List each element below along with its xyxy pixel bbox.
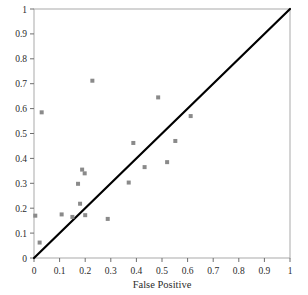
x-tick-label-1: 0.1 xyxy=(54,266,66,276)
x-tick-label-2: 0.2 xyxy=(79,266,91,276)
y-tick-label-4: 0.4 xyxy=(15,154,27,164)
y-tick-label-8: 0.8 xyxy=(15,54,27,64)
x-axis-title: False Positive xyxy=(133,279,192,290)
data-point-8 xyxy=(83,171,87,175)
data-point-12 xyxy=(127,181,131,185)
x-tick-label-0: 0 xyxy=(32,266,37,276)
y-tick-label-2: 0.2 xyxy=(15,204,27,214)
y-axis-tick-labels: 00.10.20.30.40.50.60.70.80.91 xyxy=(15,5,27,264)
scatter-chart: 00.10.20.30.40.50.60.70.80.91 00.10.20.3… xyxy=(0,0,308,295)
y-tick-label-10: 1 xyxy=(22,5,27,15)
x-tick-label-3: 0.3 xyxy=(105,266,117,276)
y-tick-label-9: 0.9 xyxy=(15,29,27,39)
data-point-14 xyxy=(143,165,147,169)
x-tick-label-8: 0.8 xyxy=(233,266,245,276)
data-point-18 xyxy=(189,114,193,118)
data-point-6 xyxy=(78,202,82,206)
y-tick-label-3: 0.3 xyxy=(15,179,27,189)
y-tick-label-6: 0.6 xyxy=(15,104,27,114)
data-point-16 xyxy=(165,160,169,164)
y-axis-ticks xyxy=(30,9,34,258)
y-tick-label-7: 0.7 xyxy=(15,79,27,89)
data-point-4 xyxy=(70,215,74,219)
data-point-17 xyxy=(173,139,177,143)
x-axis-tick-labels: 00.10.20.30.40.50.60.70.80.91 xyxy=(32,266,293,276)
data-point-10 xyxy=(90,79,94,83)
x-tick-label-4: 0.4 xyxy=(130,266,142,276)
data-point-9 xyxy=(83,213,87,217)
data-point-1 xyxy=(38,241,42,245)
data-point-11 xyxy=(106,217,110,221)
x-tick-label-6: 0.6 xyxy=(182,266,194,276)
data-point-0 xyxy=(33,214,37,218)
data-point-15 xyxy=(156,95,160,99)
data-point-2 xyxy=(40,110,44,114)
x-tick-label-10: 1 xyxy=(288,266,293,276)
data-point-3 xyxy=(60,212,64,216)
data-point-13 xyxy=(131,141,135,145)
data-point-7 xyxy=(80,168,84,172)
y-tick-label-0: 0 xyxy=(22,254,27,264)
x-tick-label-5: 0.5 xyxy=(156,266,168,276)
y-tick-label-5: 0.5 xyxy=(15,129,27,139)
x-axis-ticks xyxy=(34,258,290,262)
y-tick-label-1: 0.1 xyxy=(15,229,27,239)
data-point-5 xyxy=(76,182,80,186)
plot-svg: 00.10.20.30.40.50.60.70.80.91 00.10.20.3… xyxy=(0,0,308,295)
x-tick-label-9: 0.9 xyxy=(258,266,270,276)
x-tick-label-7: 0.7 xyxy=(207,266,219,276)
